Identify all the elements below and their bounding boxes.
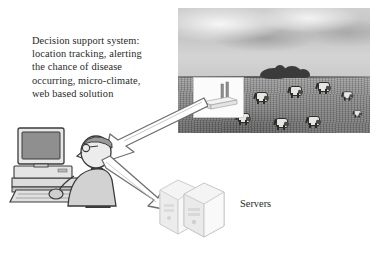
cattle-leg	[297, 93, 299, 98]
cattle-leg	[263, 99, 265, 104]
caption-line-3: the chance of disease	[32, 60, 177, 73]
cattle-leg	[344, 97, 345, 101]
diagram-canvas: Decision support system: location tracki…	[0, 0, 382, 259]
cattle-leg	[358, 115, 359, 118]
caption-line-1: Decision support system:	[32, 34, 177, 47]
cattle-figure	[342, 91, 354, 100]
servers-label: Servers	[240, 198, 271, 209]
server-tower-front	[184, 183, 224, 237]
cattle-figure	[316, 82, 331, 94]
tree-clump-icon	[274, 65, 286, 75]
cattle-leg	[325, 89, 327, 94]
cattle-leg	[315, 123, 317, 128]
cattle-leg	[349, 97, 350, 101]
cattle-figure	[288, 86, 303, 98]
cattle-leg	[291, 93, 293, 98]
caption-line-2: location tracking, alerting	[32, 47, 177, 60]
caption-line-4: occurring, micro-climate,	[32, 74, 177, 87]
decision-support-caption: Decision support system: location tracki…	[32, 34, 177, 100]
servers-illustration	[158, 176, 236, 238]
cattle-leg	[239, 120, 241, 125]
cattle-leg	[277, 125, 279, 130]
cattle-figure	[306, 116, 321, 128]
cattle-leg	[283, 125, 285, 130]
cattle-leg	[355, 115, 356, 118]
cattle-figure	[274, 118, 289, 130]
tree-clump-icon	[296, 69, 310, 78]
cattle-leg	[319, 89, 321, 94]
cattle-leg	[257, 99, 259, 104]
cattle-leg	[309, 123, 311, 128]
cattle-figure	[353, 110, 362, 117]
cattle-figure	[254, 92, 269, 104]
cattle-leg	[245, 120, 247, 125]
